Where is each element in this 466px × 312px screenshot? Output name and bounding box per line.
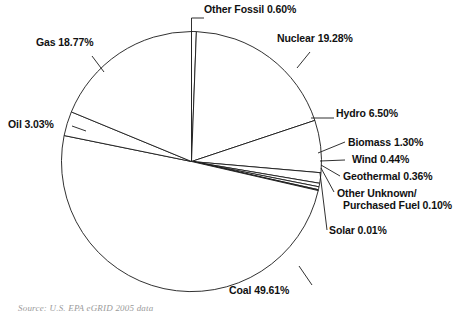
leader-line-gas [92, 56, 104, 72]
leader-line-wind [320, 160, 345, 161]
pie-label-oil: Oil 3.03% [8, 119, 54, 131]
leader-line-coal [299, 266, 312, 285]
leader-line-nuclear [297, 52, 310, 68]
pie-label-geothermal: Geothermal 0.36% [343, 171, 432, 183]
pie-slice-group [61, 31, 321, 291]
pie-label-gas: Gas 18.77% [36, 37, 93, 49]
source-note: Source: U.S. EPA eGRID 2005 data [18, 303, 153, 312]
pie-label-wind: Wind 0.44% [352, 154, 409, 166]
leader-line-biomass [318, 142, 345, 153]
leader-line-other-fossil [192, 18, 205, 32]
pie-label-other-unknown-line2: Purchased Fuel 0.10% [343, 200, 452, 212]
pie-label-other-unknown-line1: Other Unknown/ [337, 188, 417, 200]
pie-label-coal: Coal 49.61% [229, 285, 289, 297]
leader-line-geothermal [321, 165, 340, 176]
pie-label-nuclear: Nuclear 19.28% [277, 33, 353, 45]
pie-label-hydro: Hydro 6.50% [336, 108, 398, 120]
leader-line-solar [320, 173, 327, 230]
pie-chart-figure: Other Fossil 0.60% Nuclear 19.28% Hydro … [0, 0, 466, 312]
pie-label-solar: Solar 0.01% [329, 225, 387, 237]
pie-label-biomass: Biomass 1.30% [348, 137, 423, 149]
pie-label-other-fossil: Other Fossil 0.60% [204, 4, 296, 16]
